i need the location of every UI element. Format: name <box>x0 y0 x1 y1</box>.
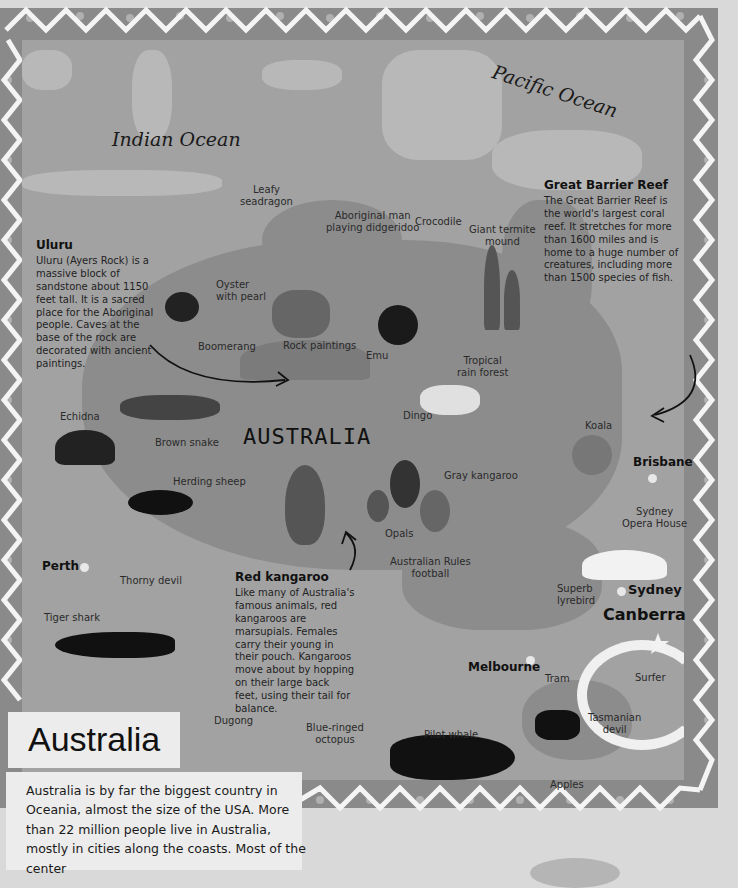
echidna-icon <box>55 430 115 465</box>
label-brown-snake: Brown snake <box>155 437 219 449</box>
info-uluru: Uluru Uluru (Ayers Rock) is a massive bl… <box>36 238 166 371</box>
info-red-kangaroo-title: Red kangaroo <box>235 570 355 585</box>
city-melbourne[interactable]: Melbourne <box>468 660 540 674</box>
label-octopus: Blue-ringed octopus <box>306 722 364 745</box>
label-opera-house: Sydney Opera House <box>622 506 687 529</box>
label-emu: Emu <box>366 350 388 362</box>
label-tasmanian-devil: Tasmanian devil <box>588 712 641 735</box>
info-reef-title: Great Barrier Reef <box>544 178 686 193</box>
indian-ocean-label: Indian Ocean <box>112 128 241 150</box>
bottom-decoration <box>530 858 620 888</box>
label-herding-sheep: Herding sheep <box>173 476 246 488</box>
label-dingo: Dingo <box>403 410 432 422</box>
label-oyster: Oyster with pearl <box>216 279 266 302</box>
sydney-dot <box>617 587 626 596</box>
label-aussie-rules: Australian Rules football <box>390 556 471 579</box>
info-reef: Great Barrier Reef The Great Barrier Ree… <box>544 178 686 285</box>
label-thorny-devil: Thorny devil <box>120 575 182 587</box>
termite-mound-icon <box>484 245 500 330</box>
label-tram: Tram <box>545 673 570 685</box>
label-gray-kangaroo: Gray kangaroo <box>444 470 518 482</box>
perth-dot <box>80 563 89 572</box>
opera-house-icon <box>582 550 667 580</box>
info-red-kangaroo: Red kangaroo Like many of Australia's fa… <box>235 570 355 715</box>
shark-icon <box>55 632 175 658</box>
label-boomerang: Boomerang <box>198 341 256 353</box>
brisbane-dot <box>648 474 657 483</box>
opal-icon <box>420 490 450 532</box>
description-panel: Australia is by far the biggest country … <box>6 772 302 870</box>
opal-icon <box>367 490 389 522</box>
tasmanian-devil-icon <box>535 710 580 740</box>
description-text: Australia is by far the biggest country … <box>26 781 316 878</box>
termite-mound-icon <box>504 270 520 330</box>
oyster-icon <box>165 292 199 322</box>
info-red-kangaroo-text: Like many of Australia's famous animals,… <box>235 587 355 715</box>
page-title: Australia <box>28 720 160 759</box>
label-koala: Koala <box>585 420 612 432</box>
city-sydney[interactable]: Sydney <box>628 582 682 597</box>
city-canberra[interactable]: Canberra <box>603 605 686 624</box>
title-panel: Australia <box>8 712 180 768</box>
red-kangaroo-icon <box>285 465 325 545</box>
info-uluru-title: Uluru <box>36 238 166 253</box>
snake-icon <box>120 395 220 420</box>
label-tiger-shark: Tiger shark <box>44 612 100 624</box>
label-echidna: Echidna <box>60 411 100 423</box>
koala-icon <box>572 435 612 475</box>
label-aboriginal-man: Aboriginal man playing didgeridoo <box>326 210 419 233</box>
label-leafy-seadragon: Leafy seadragon <box>240 184 293 207</box>
label-opals: Opals <box>385 528 413 540</box>
label-crocodile: Crocodile <box>415 216 462 228</box>
opal-icon <box>390 460 420 508</box>
whale-icon <box>390 735 515 780</box>
label-rock-paintings: Rock paintings <box>283 340 356 352</box>
city-brisbane[interactable]: Brisbane <box>633 455 693 469</box>
info-uluru-text: Uluru (Ayers Rock) is a massive block of… <box>36 255 166 370</box>
country-label: AUSTRALIA <box>243 424 371 449</box>
emu-icon <box>378 305 418 345</box>
label-apples: Apples <box>550 779 584 791</box>
label-pilot-whale: Pilot whale <box>424 729 478 741</box>
info-reef-text: The Great Barrier Reef is the world's la… <box>544 195 686 285</box>
rock-painting-icon <box>272 290 330 338</box>
label-dugong: Dugong <box>214 715 253 727</box>
horse-icon <box>128 490 193 515</box>
label-lyrebird: Superb lyrebird <box>557 583 595 606</box>
city-perth[interactable]: Perth <box>42 559 79 573</box>
label-surfer: Surfer <box>635 672 666 684</box>
label-termite-mound: Giant termite mound <box>469 224 536 247</box>
label-rain-forest: Tropical rain forest <box>457 355 508 378</box>
